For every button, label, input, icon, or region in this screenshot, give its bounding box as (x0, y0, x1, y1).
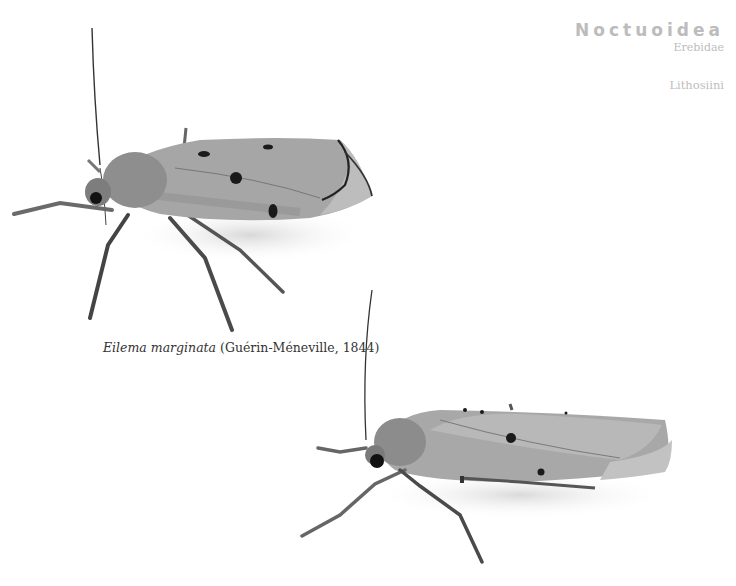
moth-specimen-lower (290, 280, 690, 570)
species-name: Eilema marginata (103, 340, 216, 355)
family-heading: Erebidae (674, 41, 724, 54)
tribe-heading: Lithosiini (669, 78, 724, 92)
superfamily-heading: Noctuoidea (575, 20, 724, 40)
